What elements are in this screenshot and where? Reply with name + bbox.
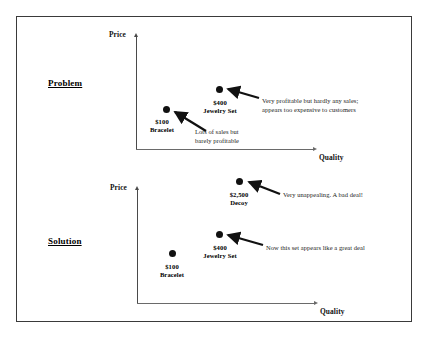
label-jewelry-name-bottom: Jewelry Set — [190, 251, 250, 260]
section-title-solution: Solution — [48, 236, 82, 246]
label-bracelet-name-top: Bracelet — [132, 125, 192, 134]
quality-axis-top — [136, 149, 314, 150]
data-point-jewelry-bottom — [216, 231, 223, 238]
callout-decoy-bottom: Very unappealing. A bad deal! — [283, 190, 363, 199]
callout-bracelet-line-2: barely profitable — [195, 136, 239, 145]
diagram-frame: Price Quality Problem $100 Bracelet $400… — [16, 16, 412, 322]
callout-jewelry-line-1: Very profitable but hardly any sales; — [262, 96, 358, 105]
arrow-to-jewelry-top — [228, 89, 259, 98]
data-point-bracelet-bottom — [169, 250, 176, 257]
quality-axis-label-bottom: Quality — [320, 307, 345, 316]
label-bracelet-name-bottom: Bracelet — [142, 270, 202, 279]
quality-axis-label-top: Quality — [319, 153, 344, 162]
data-point-bracelet-top — [163, 106, 170, 113]
label-jewelry-name-top: Jewelry Set — [190, 106, 250, 115]
callout-jewelry-line-2: appears too expensive to customers — [262, 105, 358, 114]
slide-canvas: Price Quality Problem $100 Bracelet $400… — [0, 0, 429, 341]
quality-axis-arrowhead-top — [313, 147, 317, 151]
price-axis-arrowhead-top — [134, 33, 138, 37]
price-axis-label-top: Price — [109, 30, 126, 39]
price-axis-label-bottom: Price — [110, 183, 127, 192]
quality-axis-arrowhead-bottom — [314, 301, 318, 305]
data-point-decoy-bottom — [236, 178, 243, 185]
callout-bracelet-top: Lots of sales but barely profitable — [195, 127, 239, 145]
section-title-problem: Problem — [48, 78, 82, 88]
solution-panel: Price Quality Solution $2,500 Decoy $400… — [17, 172, 413, 322]
data-point-jewelry-top — [216, 86, 223, 93]
price-axis-bottom — [137, 190, 138, 304]
label-decoy-name-bottom: Decoy — [209, 198, 269, 207]
quality-axis-bottom — [137, 303, 315, 304]
callout-bracelet-line-1: Lots of sales but — [195, 127, 239, 136]
scan-artifact — [0, 0, 429, 12]
callout-jewelry-bottom: Now this set appears like a great deal — [266, 243, 365, 252]
callout-jewelry-top: Very profitable but hardly any sales; ap… — [262, 96, 358, 114]
problem-panel: Price Quality Problem $100 Bracelet $400… — [17, 17, 413, 172]
price-axis-arrowhead-bottom — [135, 186, 139, 190]
